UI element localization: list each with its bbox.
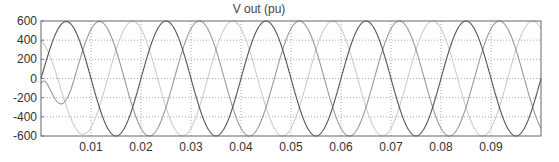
y-tick-label: 200	[17, 52, 37, 66]
x-tick-label: 0.06	[329, 140, 353, 154]
y-tick-label: -200	[13, 91, 37, 105]
x-tick-label: 0.07	[379, 140, 403, 154]
y-tick-label: 600	[17, 14, 37, 28]
y-tick-label: -400	[13, 110, 37, 124]
x-tick-label: 0.05	[279, 140, 303, 154]
line-chart: 6004002000-200-400-600 0.010.020.030.040…	[0, 0, 559, 162]
y-tick-label: -600	[13, 129, 37, 143]
x-tick-label: 0.04	[229, 140, 253, 154]
x-tick-label: 0.02	[129, 140, 153, 154]
x-tick-label: 0.03	[179, 140, 203, 154]
y-axis-ticks: 6004002000-200-400-600	[13, 14, 44, 143]
x-axis-ticks: 0.010.020.030.040.050.060.070.080.09	[79, 140, 503, 154]
y-tick-label: 400	[17, 33, 37, 47]
x-tick-label: 0.09	[479, 140, 503, 154]
x-tick-label: 0.08	[429, 140, 453, 154]
y-tick-label: 0	[30, 72, 37, 86]
x-tick-label: 0.01	[79, 140, 103, 154]
